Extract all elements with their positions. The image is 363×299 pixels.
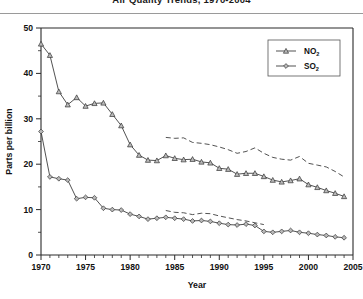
data-point-marker (270, 230, 275, 235)
data-point-marker (315, 232, 320, 237)
y-tick-label: 30 (23, 114, 33, 124)
chart-page: Air Quality Trends, 1970-2004 0102030405… (0, 0, 363, 299)
y-axis-title: Parts per billion (4, 108, 14, 174)
data-point-marker (74, 95, 79, 100)
data-point-marker (39, 129, 44, 134)
data-point-marker (324, 188, 329, 193)
x-tick-label: 2005 (343, 262, 362, 272)
data-point-marker (342, 235, 347, 240)
data-point-marker (208, 219, 213, 224)
data-point-marker (244, 222, 249, 227)
chart-title-band: Air Quality Trends, 1970-2004 (0, 0, 363, 14)
data-point-marker (190, 219, 195, 224)
x-tick-label: 1980 (121, 262, 140, 272)
plot-area: 0102030405019701975198019851990199520002… (0, 14, 363, 299)
x-tick-label: 1975 (76, 262, 95, 272)
data-point-marker (146, 217, 151, 222)
y-tick-label: 0 (28, 250, 33, 260)
x-axis-title: Year (188, 280, 207, 290)
data-point-marker (163, 153, 168, 158)
data-point-marker (110, 207, 115, 212)
data-point-marker (261, 229, 266, 234)
x-tick-label: 1990 (210, 262, 229, 272)
data-point-marker (226, 222, 231, 227)
data-point-marker (48, 175, 53, 180)
data-point-marker (83, 195, 88, 200)
x-tick-label: 2000 (299, 262, 318, 272)
data-point-marker (119, 208, 124, 213)
data-point-marker (253, 223, 258, 228)
legend-subscript-so2: 2 (316, 66, 319, 72)
data-point-marker (333, 234, 338, 239)
data-point-marker (163, 215, 168, 220)
x-tick-label: 1985 (165, 262, 184, 272)
x-tick-label: 1970 (31, 262, 50, 272)
data-point-marker (217, 221, 222, 226)
y-tick-label: 10 (23, 205, 33, 215)
data-point-marker (306, 231, 311, 236)
data-point-marker (74, 196, 79, 201)
data-point-marker (297, 176, 302, 181)
data-point-marker (199, 218, 204, 223)
data-point-marker (172, 216, 177, 221)
data-point-marker (306, 182, 311, 187)
data-point-marker (270, 177, 275, 182)
y-tick-label: 20 (23, 159, 33, 169)
page-title: Air Quality Trends, 1970-2004 (0, 0, 363, 5)
data-point-marker (56, 89, 61, 94)
y-tick-label: 50 (23, 23, 33, 33)
data-point-marker (154, 216, 159, 221)
y-tick-label: 40 (23, 68, 33, 78)
data-point-marker (279, 229, 284, 234)
data-point-marker (261, 174, 266, 179)
data-point-marker (297, 230, 302, 235)
air-quality-line-chart: 0102030405019701975198019851990199520002… (0, 14, 363, 299)
data-point-marker (324, 233, 329, 238)
x-tick-label: 1995 (254, 262, 273, 272)
legend-subscript-no2: 2 (316, 51, 319, 57)
data-point-marker (128, 142, 133, 147)
data-point-marker (181, 217, 186, 222)
data-point-marker (128, 212, 133, 217)
data-point-marker (56, 176, 61, 181)
data-point-marker (341, 194, 346, 199)
data-point-marker (65, 178, 70, 183)
data-point-marker (235, 223, 240, 228)
data-point-marker (137, 214, 142, 219)
data-point-marker (288, 228, 293, 233)
data-point-marker (38, 41, 43, 46)
